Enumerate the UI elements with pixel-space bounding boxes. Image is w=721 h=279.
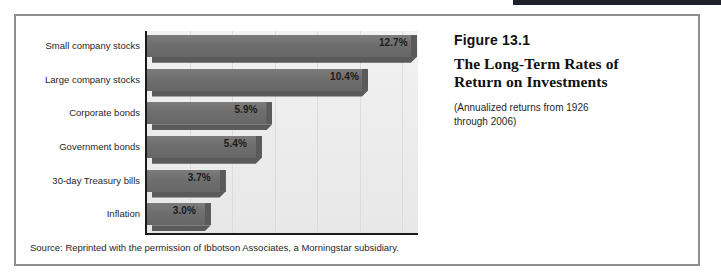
chart-bar-shadow [152, 225, 211, 231]
chart-bar-shadow [152, 124, 272, 130]
chart-bar-shadow [152, 192, 226, 198]
chart-plot-wrapper: 12.7%10.4%5.9%5.4%3.7%3.0% [145, 31, 418, 235]
figure-title-line-1: The Long-Term Rates of [454, 55, 619, 72]
caption-panel: Figure 13.1 The Long-Term Rates of Retur… [454, 32, 682, 130]
chart-source-note: Source: Reprinted with the permission of… [30, 242, 399, 253]
chart-bar-row: 12.7% [147, 35, 418, 69]
chart-bar-value-label: 3.0% [173, 205, 196, 216]
chart-bar-row: 3.0% [147, 203, 418, 233]
chart-category-label: Small company stocks [16, 40, 140, 51]
chart-category-label: Corporate bonds [16, 107, 140, 118]
chart-category-label: Inflation [16, 208, 140, 219]
chart-category-label: 30-day Treasury bills [16, 175, 140, 186]
figure-title: The Long-Term Rates of Return on Investm… [454, 55, 682, 92]
chart-block: Small company stocksLarge company stocks… [16, 16, 436, 268]
figure-number-label: Figure 13.1 [454, 32, 682, 48]
figure-frame: Small company stocksLarge company stocks… [14, 14, 700, 266]
chart-category-label: Government bonds [16, 141, 140, 152]
chart-category-label: Large company stocks [16, 74, 140, 85]
chart-bar-end-cap [266, 102, 272, 124]
figure-title-line-2: Return on Investments [454, 73, 608, 90]
chart-x-axis-line [145, 233, 418, 235]
page-header-rule [513, 0, 721, 5]
chart-bar-row: 5.4% [147, 136, 418, 170]
chart-bar-end-cap [362, 69, 368, 91]
chart-bar-end-cap [220, 170, 226, 192]
chart-bar-value-label: 12.7% [379, 37, 408, 48]
chart-bar-shadow [152, 91, 368, 97]
chart-category-axis: Small company stocksLarge company stocks… [16, 31, 140, 235]
chart-bar [147, 35, 417, 57]
chart-bar-end-cap [411, 35, 417, 57]
chart-bar-value-label: 10.4% [330, 71, 359, 82]
chart-plot-area: 12.7%10.4%5.9%5.4%3.7%3.0% [147, 31, 418, 233]
chart-bar-value-label: 5.9% [234, 104, 257, 115]
figure-subtitle: (Annualized returns from 1926 through 20… [454, 101, 622, 130]
chart-bar-row: 3.7% [147, 170, 418, 204]
chart-y-axis-line [145, 31, 147, 235]
chart-bar [147, 170, 226, 192]
chart-bar-end-cap [256, 136, 262, 158]
chart-bar-value-label: 3.7% [188, 172, 211, 183]
chart-bar-value-label: 5.4% [224, 138, 247, 149]
chart-bar-row: 5.9% [147, 102, 418, 136]
chart-bar-shadow [152, 158, 262, 164]
chart-bar-shadow [152, 57, 417, 63]
chart-bar-row: 10.4% [147, 69, 418, 103]
chart-bar-end-cap [205, 203, 211, 225]
